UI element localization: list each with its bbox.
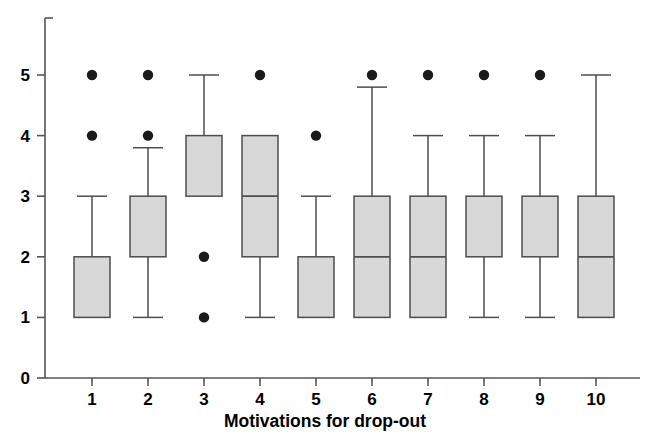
outlier-1-4 — [87, 130, 97, 140]
y-tick-label-1: 1 — [21, 308, 30, 327]
outlier-3-1 — [199, 312, 209, 322]
boxplot-svg: 12345678910 012345 Motivations for drop-… — [0, 0, 649, 448]
x-tick-label-1: 1 — [87, 390, 96, 409]
box-rect-8 — [466, 196, 502, 257]
box-1 — [74, 70, 110, 318]
box-9 — [522, 70, 558, 318]
box-4 — [242, 70, 278, 318]
outlier-5-4 — [311, 130, 321, 140]
outlier-4-5 — [255, 70, 265, 80]
box-7 — [410, 70, 446, 318]
outlier-6-5 — [367, 70, 377, 80]
box-series — [74, 70, 614, 323]
x-axis-title: Motivations for drop-out — [224, 411, 426, 431]
box-rect-3 — [186, 136, 222, 197]
boxplot-figure: 12345678910 012345 Motivations for drop-… — [0, 0, 649, 448]
outlier-2-4 — [143, 130, 153, 140]
box-rect-1 — [74, 257, 110, 318]
x-tick-label-6: 6 — [367, 390, 376, 409]
x-tick-labels: 12345678910 — [87, 390, 605, 409]
box-3 — [186, 75, 222, 323]
x-tick-label-9: 9 — [535, 390, 544, 409]
x-tick-label-3: 3 — [199, 390, 208, 409]
outlier-7-5 — [423, 70, 433, 80]
y-tick-label-3: 3 — [21, 187, 30, 206]
x-tick-label-8: 8 — [479, 390, 488, 409]
outlier-9-5 — [535, 70, 545, 80]
box-10 — [578, 75, 614, 317]
x-tick-label-4: 4 — [255, 390, 265, 409]
box-5 — [298, 130, 334, 317]
outlier-1-5 — [87, 70, 97, 80]
box-rect-5 — [298, 257, 334, 318]
x-axis — [45, 378, 640, 386]
outlier-8-5 — [479, 70, 489, 80]
outlier-3-2 — [199, 252, 209, 262]
box-rect-2 — [130, 196, 166, 257]
y-tick-label-0: 0 — [21, 369, 30, 388]
x-tick-label-2: 2 — [143, 390, 152, 409]
box-2 — [130, 70, 166, 318]
x-tick-label-5: 5 — [311, 390, 320, 409]
y-tick-label-2: 2 — [21, 248, 30, 267]
y-tick-label-4: 4 — [21, 127, 31, 146]
outlier-2-5 — [143, 70, 153, 80]
box-rect-9 — [522, 196, 558, 257]
y-tick-labels: 012345 — [21, 66, 31, 388]
x-tick-label-7: 7 — [423, 390, 432, 409]
y-axis — [37, 18, 53, 378]
box-6 — [354, 70, 390, 318]
box-8 — [466, 70, 502, 318]
y-tick-label-5: 5 — [21, 66, 30, 85]
x-tick-label-10: 10 — [587, 390, 606, 409]
